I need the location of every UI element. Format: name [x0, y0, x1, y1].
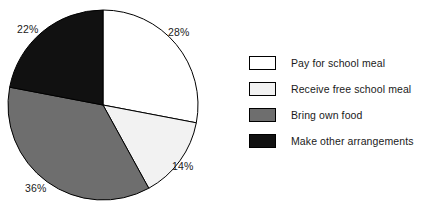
legend-label-bring-own-food: Bring own food — [291, 109, 362, 121]
slice-percent-label-pay-for-school-meal: 28% — [168, 26, 190, 38]
slice-percent-label-bring-own-food: 36% — [25, 182, 47, 194]
slice-percent-label-make-other-arrangements: 22% — [17, 23, 39, 35]
legend-item-pay-for-school-meal: Pay for school meal — [249, 50, 424, 76]
legend-label-make-other-arrangements: Make other arrangements — [291, 135, 414, 147]
slice-percent-label-receive-free-school-meal: 14% — [172, 160, 194, 172]
pie-chart-figure: 28% 14% 36% 22% Pay for school meal Rece… — [0, 0, 424, 212]
legend-swatch-receive-free-school-meal — [249, 82, 276, 96]
legend-swatch-pay-for-school-meal — [249, 56, 276, 70]
chart-legend: Pay for school meal Receive free school … — [249, 50, 424, 154]
legend-label-receive-free-school-meal: Receive free school meal — [291, 83, 411, 95]
legend-label-pay-for-school-meal: Pay for school meal — [291, 57, 385, 69]
legend-item-bring-own-food: Bring own food — [249, 102, 424, 128]
legend-swatch-bring-own-food — [249, 108, 276, 122]
legend-swatch-make-other-arrangements — [249, 134, 276, 148]
legend-item-make-other-arrangements: Make other arrangements — [249, 128, 424, 154]
legend-item-receive-free-school-meal: Receive free school meal — [249, 76, 424, 102]
pie-chart-plot-area: 28% 14% 36% 22% — [0, 0, 212, 212]
